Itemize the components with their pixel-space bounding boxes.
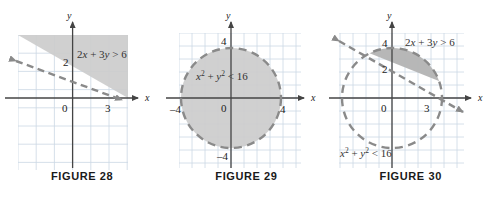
y-neg-tick-label-29: –4	[216, 150, 229, 162]
figure-caption-29: FIGURE 29	[215, 170, 277, 182]
y-tick-4-label-30: 4	[382, 37, 388, 49]
figure-caption-28: FIGURE 28	[51, 170, 113, 182]
inequality-label-28: 2x + 3y > 6	[77, 48, 127, 60]
figure-30-plot: x y 0 3 2 4 2x + 3y > 6 x2 + y2 < 16	[329, 0, 493, 172]
figures-row: x y 0 3 2 2x + 3y > 6 FIGURE 28	[0, 0, 493, 206]
figure-caption-30: FIGURE 30	[380, 170, 442, 182]
origin-label-29: 0	[221, 102, 227, 114]
inequality-label-line-30: 2x + 3y > 6	[405, 36, 455, 48]
x-pos-tick-label-29: 4	[280, 103, 286, 115]
figure-panel-28: x y 0 3 2 2x + 3y > 6 FIGURE 28	[0, 0, 164, 206]
y-axis-label-29: y	[225, 10, 231, 21]
x-axis-label-28: x	[144, 92, 150, 103]
figure-29-plot: x y 0 –4 4 4 –4 x2 + y2 < 16	[164, 0, 328, 172]
x-axis-label-30: x	[477, 92, 483, 103]
x-neg-tick-label-29: –4	[169, 103, 182, 115]
y-axis-label-30: y	[386, 10, 392, 21]
origin-label-28: 0	[62, 102, 68, 114]
y-pos-tick-label-29: 4	[221, 35, 227, 47]
y-axis-label-28: y	[66, 10, 72, 21]
y-tick-2-label-30: 2	[382, 63, 388, 75]
figure-28-plot: x y 0 3 2 2x + 3y > 6	[0, 0, 164, 172]
x-axis-label-29: x	[310, 92, 316, 103]
figure-panel-30: x y 0 3 2 4 2x + 3y > 6 x2 + y2 < 16 FIG…	[329, 0, 493, 206]
x-intercept-label-30: 3	[424, 102, 430, 114]
x-intercept-label-28: 3	[105, 102, 111, 114]
y-intercept-label-28: 2	[63, 56, 69, 68]
origin-label-30: 0	[381, 102, 387, 114]
figure-panel-29: x y 0 –4 4 4 –4 x2 + y2 < 16 FIGURE 29	[164, 0, 328, 206]
